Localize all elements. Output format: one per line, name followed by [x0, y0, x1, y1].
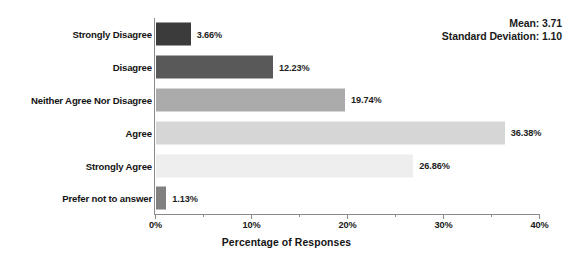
bar-value-label: 36.38%: [511, 128, 542, 138]
x-tick-label: 30%: [434, 220, 452, 230]
bar-container: 3.66%: [156, 23, 223, 46]
bar-row: Strongly Agree26.86%: [0, 149, 573, 182]
bar-container: 12.23%: [156, 56, 310, 79]
x-tick-label: 0%: [149, 220, 162, 230]
x-axis-tick-major: [443, 214, 444, 219]
category-label: Agree: [126, 127, 152, 138]
bar-row: Agree36.38%: [0, 116, 573, 149]
bar-value-label: 26.86%: [419, 161, 450, 171]
plot-area: Strongly Disagree3.66%Disagree12.23%Neit…: [0, 0, 573, 264]
x-axis-tick-minor: [395, 214, 396, 217]
bar[interactable]: [156, 154, 414, 177]
bar[interactable]: [156, 88, 346, 111]
survey-bar-chart: Mean: 3.71 Standard Deviation: 1.10 Stro…: [0, 0, 573, 264]
x-tick-label: 20%: [338, 220, 356, 230]
bar-value-label: 12.23%: [279, 62, 310, 72]
bar[interactable]: [156, 121, 505, 144]
category-label: Neither Agree Nor Disagree: [31, 94, 152, 105]
x-axis-tick-major: [347, 214, 348, 219]
bar[interactable]: [156, 187, 167, 210]
bar-value-label: 19.74%: [351, 95, 382, 105]
x-axis-tick-major: [539, 214, 540, 219]
bar-container: 1.13%: [156, 187, 198, 210]
bar[interactable]: [156, 56, 273, 79]
bar-value-label: 3.66%: [197, 29, 223, 39]
x-tick-label: 40%: [530, 220, 548, 230]
bar-row: Neither Agree Nor Disagree19.74%: [0, 84, 573, 117]
x-axis-tick-minor: [491, 214, 492, 217]
x-axis-title: Percentage of Responses: [0, 237, 573, 248]
x-axis-tick-minor: [299, 214, 300, 217]
category-label: Prefer not to answer: [62, 193, 152, 204]
x-tick-label: 10%: [242, 220, 260, 230]
category-label: Strongly Agree: [86, 160, 152, 171]
x-axis-tick-major: [251, 214, 252, 219]
bar-value-label: 1.13%: [172, 193, 198, 203]
x-axis-tick-labels: 0%10%20%30%40%: [0, 220, 573, 234]
bar-container: 26.86%: [156, 154, 450, 177]
bar-row: Strongly Disagree3.66%: [0, 18, 573, 51]
category-label: Strongly Disagree: [72, 29, 152, 40]
bar[interactable]: [156, 23, 191, 46]
bar-container: 19.74%: [156, 88, 382, 111]
bar-row: Disagree12.23%: [0, 51, 573, 84]
x-axis-tick-major: [155, 214, 156, 219]
x-axis-tick-minor: [203, 214, 204, 217]
category-label: Disagree: [113, 62, 152, 73]
bar-row: Prefer not to answer1.13%: [0, 182, 573, 215]
bar-rows: Strongly Disagree3.66%Disagree12.23%Neit…: [0, 18, 573, 215]
bar-container: 36.38%: [156, 121, 542, 144]
